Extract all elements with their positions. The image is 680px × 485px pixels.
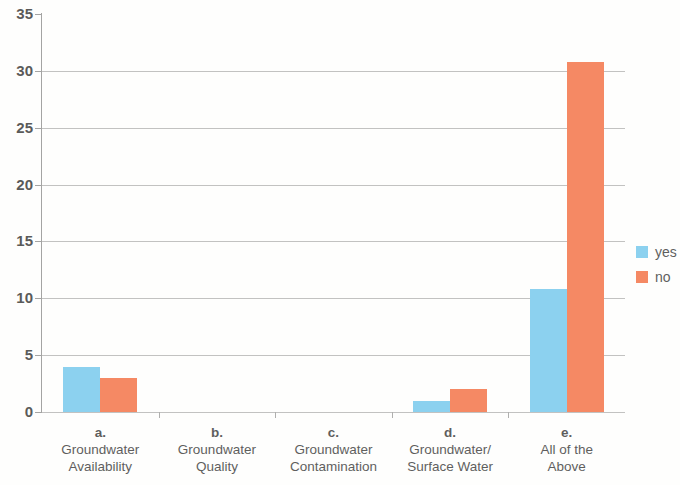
x-label-line1: Groundwater: [152, 441, 283, 458]
x-label-line2: Surface Water: [385, 458, 516, 475]
bar-no-0: [100, 378, 137, 412]
x-tick-mark: [392, 412, 393, 418]
x-tick-mark: [275, 412, 276, 418]
x-label-line1: All of the: [501, 441, 632, 458]
x-label-line2: Contamination: [268, 458, 399, 475]
y-tick-mark: [35, 241, 42, 242]
x-label-line2: Above: [501, 458, 632, 475]
bar-yes-3: [413, 401, 450, 412]
plot-area: [42, 14, 625, 412]
bar-chart: 35302520151050 a.GroundwaterAvailability…: [0, 0, 680, 485]
y-tick-mark: [35, 71, 42, 72]
x-axis-label-d: d.Groundwater/Surface Water: [385, 424, 516, 475]
bar-yes-4: [530, 289, 567, 412]
x-axis-label-b: b.GroundwaterQuality: [152, 424, 283, 475]
x-axis-label-a: a.GroundwaterAvailability: [35, 424, 166, 475]
bar-no-4: [567, 62, 604, 412]
y-tick-mark: [35, 128, 42, 129]
x-label-line1: Groundwater/: [385, 441, 516, 458]
y-tick-label: 25: [0, 120, 33, 135]
legend-swatch-no: [636, 271, 648, 283]
bar-no-3: [450, 389, 487, 412]
legend-label-yes: yes: [655, 244, 677, 260]
x-label-line1: Groundwater: [35, 441, 166, 458]
y-tick-mark: [35, 355, 42, 356]
x-label-letter: b.: [152, 424, 283, 441]
y-tick-label: 30: [0, 63, 33, 78]
legend-swatch-yes: [636, 246, 648, 258]
gridline: [42, 241, 625, 242]
y-tick-label: 20: [0, 177, 33, 192]
gridline: [42, 71, 625, 72]
x-tick-mark: [508, 412, 509, 418]
legend: yes no: [636, 239, 677, 289]
gridline: [42, 128, 625, 129]
legend-item-no[interactable]: no: [636, 264, 677, 289]
gridline: [42, 185, 625, 186]
y-tick-label: 0: [0, 404, 33, 419]
y-tick-mark: [35, 185, 42, 186]
x-label-line1: Groundwater: [268, 441, 399, 458]
legend-item-yes[interactable]: yes: [636, 239, 677, 264]
y-tick-mark: [35, 412, 42, 413]
x-axis-label-e: e.All of theAbove: [501, 424, 632, 475]
gridline: [42, 412, 625, 413]
x-label-letter: a.: [35, 424, 166, 441]
legend-label-no: no: [655, 269, 671, 285]
x-axis-label-c: c.GroundwaterContamination: [268, 424, 399, 475]
x-label-letter: d.: [385, 424, 516, 441]
y-tick-label: 5: [0, 347, 33, 362]
y-tick-label: 35: [0, 6, 33, 21]
x-label-line2: Availability: [35, 458, 166, 475]
x-tick-mark: [159, 412, 160, 418]
y-tick-mark: [35, 14, 42, 15]
x-label-line2: Quality: [152, 458, 283, 475]
y-tick-mark: [35, 298, 42, 299]
x-label-letter: c.: [268, 424, 399, 441]
y-tick-label: 15: [0, 233, 33, 248]
y-tick-label: 10: [0, 290, 33, 305]
bar-yes-0: [63, 367, 100, 412]
x-label-letter: e.: [501, 424, 632, 441]
